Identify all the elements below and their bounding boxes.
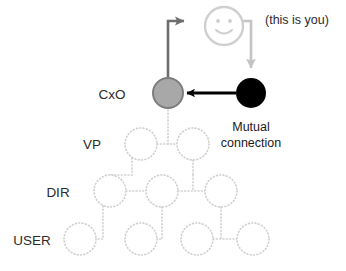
mutual-caption-line2: connection bbox=[221, 136, 282, 150]
cxo-node bbox=[153, 78, 183, 108]
ghost-node-dir-2 bbox=[146, 175, 178, 207]
ghost-node-user-4 bbox=[237, 223, 269, 255]
you-eye-left bbox=[216, 19, 220, 23]
mutual-caption-line1: Mutual bbox=[232, 120, 270, 134]
arrow-cxo-to-you bbox=[168, 21, 184, 78]
tier-label-cxo: CxO bbox=[99, 87, 126, 102]
ghost-node-vp-1 bbox=[125, 128, 157, 160]
tier-label-vp: VP bbox=[83, 137, 101, 152]
ghost-node-user-3 bbox=[181, 223, 213, 255]
tier-label-dir: DIR bbox=[46, 185, 70, 200]
ghost-node-dir-1 bbox=[94, 175, 126, 207]
you-eye-right bbox=[228, 19, 232, 23]
ghost-node-user-2 bbox=[125, 223, 157, 255]
ghost-node-dir-3 bbox=[205, 175, 237, 207]
ghost-link-dir1-down bbox=[96, 206, 103, 239]
you-circle bbox=[205, 7, 243, 45]
ghost-node-vp-2 bbox=[177, 128, 209, 160]
network-diagram: CxO VP DIR USER (this is you) Mutual con… bbox=[0, 0, 346, 271]
mutual-connection-node bbox=[236, 78, 266, 108]
tier-label-user: USER bbox=[13, 233, 51, 248]
ghost-node-user-1 bbox=[64, 223, 96, 255]
ghost-link-dir2-down bbox=[157, 207, 162, 239]
you-caption: (this is you) bbox=[265, 13, 329, 27]
arrow-you-to-mutual bbox=[243, 21, 251, 68]
you-node bbox=[205, 7, 243, 45]
diagram-canvas: CxO VP DIR USER (this is you) Mutual con… bbox=[0, 0, 346, 271]
ghost-link-vp1-down bbox=[110, 158, 132, 175]
